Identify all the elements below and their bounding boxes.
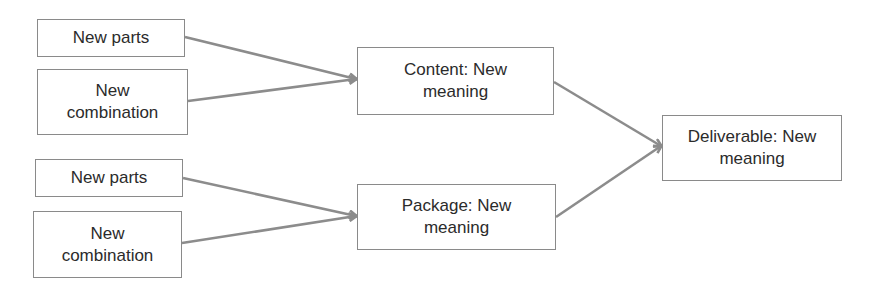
- node-label-line1: New: [95, 80, 129, 102]
- node-top-new-parts: New parts: [37, 19, 185, 57]
- node-label-line1: Content: New: [404, 59, 507, 81]
- arrow-content-to-deliverable: [554, 82, 661, 146]
- arrow-n2-to-content: [188, 79, 356, 101]
- arrow-package-to-deliverable: [556, 146, 661, 217]
- node-label: New parts: [71, 167, 148, 189]
- node-package-new-meaning: Package: New meaning: [357, 184, 556, 250]
- node-label-line1: Package: New: [402, 195, 512, 217]
- node-top-new-combination: New combination: [37, 69, 188, 135]
- node-deliverable-new-meaning: Deliverable: New meaning: [662, 115, 842, 181]
- arrow-n4-to-package: [182, 216, 356, 243]
- node-label-line1: New: [90, 223, 124, 245]
- node-label-line2: combination: [62, 245, 154, 267]
- diagram-canvas: New parts New combination New parts New …: [0, 0, 872, 293]
- node-label-line2: meaning: [719, 148, 784, 170]
- node-label-line2: meaning: [423, 81, 488, 103]
- arrow-n1-to-content: [185, 37, 356, 79]
- node-label-line2: combination: [67, 102, 159, 124]
- node-bottom-new-combination: New combination: [33, 211, 182, 278]
- node-content-new-meaning: Content: New meaning: [357, 47, 554, 115]
- node-label: New parts: [73, 27, 150, 49]
- node-bottom-new-parts: New parts: [35, 159, 183, 197]
- node-label-line1: Deliverable: New: [688, 126, 817, 148]
- node-label-line2: meaning: [424, 217, 489, 239]
- arrow-n3-to-package: [183, 178, 356, 216]
